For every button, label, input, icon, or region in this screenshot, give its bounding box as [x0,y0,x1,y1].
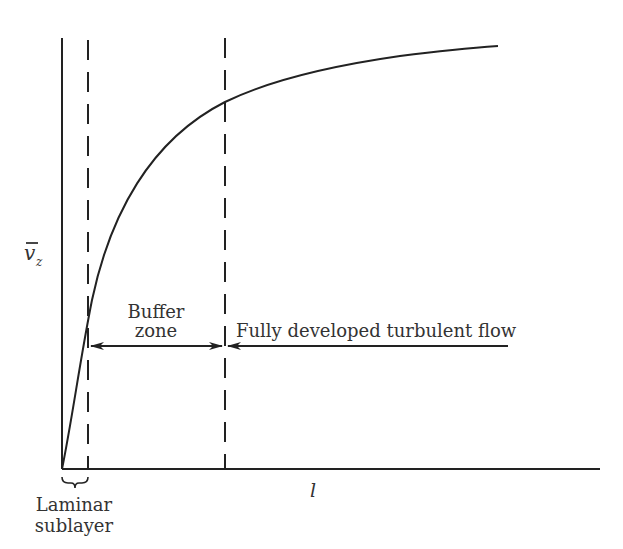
y-axis-label-subscript: z [35,255,43,269]
y-axis-label: v [24,241,36,265]
velocity-profile-diagram: v z l Buffer zone Fully developed turbul… [0,0,623,549]
laminar-label-line2: sublayer [35,515,114,536]
x-axis-label: l [310,479,316,501]
turbulent-label: Fully developed turbulent flow [236,320,517,341]
velocity-curve [62,46,498,469]
buffer-label-line2: zone [135,320,178,341]
laminar-brace [62,477,88,488]
buffer-label-line1: Buffer [128,301,185,322]
laminar-label-line1: Laminar [36,494,113,515]
